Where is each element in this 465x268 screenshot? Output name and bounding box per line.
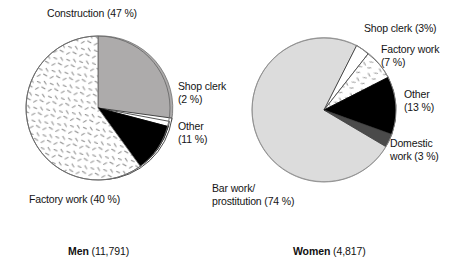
women-label-factory-work: Factory work (7 %) <box>381 43 439 69</box>
women-label-domestic-work: Domestic work (3 %) <box>390 137 439 163</box>
men-caption: Men (11,791) <box>68 245 129 258</box>
women-caption-name: Women <box>293 245 330 257</box>
women-pie <box>252 38 396 182</box>
men-slice-construction[interactable] <box>98 36 173 122</box>
men-label-construction: Construction (47 %) <box>47 7 137 20</box>
women-caption: Women (4,817) <box>293 245 366 258</box>
women-label-bar-work: Bar work/ prostitution (74 %) <box>212 182 294 208</box>
men-label-factory-work: Factory work (40 %) <box>29 193 120 206</box>
men-caption-name: Men <box>68 245 89 257</box>
women-caption-count: (4,817) <box>330 245 365 257</box>
men-pie <box>26 36 175 180</box>
women-label-shop-clerk: Shop clerk (3%) <box>364 22 436 35</box>
pie-charts-svg <box>0 0 465 268</box>
men-label-other: Other (11 %) <box>178 120 207 146</box>
women-label-other: Other (13 %) <box>404 88 434 114</box>
men-label-shop-clerk: Shop clerk (2 %) <box>178 80 226 106</box>
men-caption-count: (11,791) <box>89 245 129 257</box>
pie-chart-figure: Construction (47 %) Shop clerk (2 %) Oth… <box>0 0 465 268</box>
